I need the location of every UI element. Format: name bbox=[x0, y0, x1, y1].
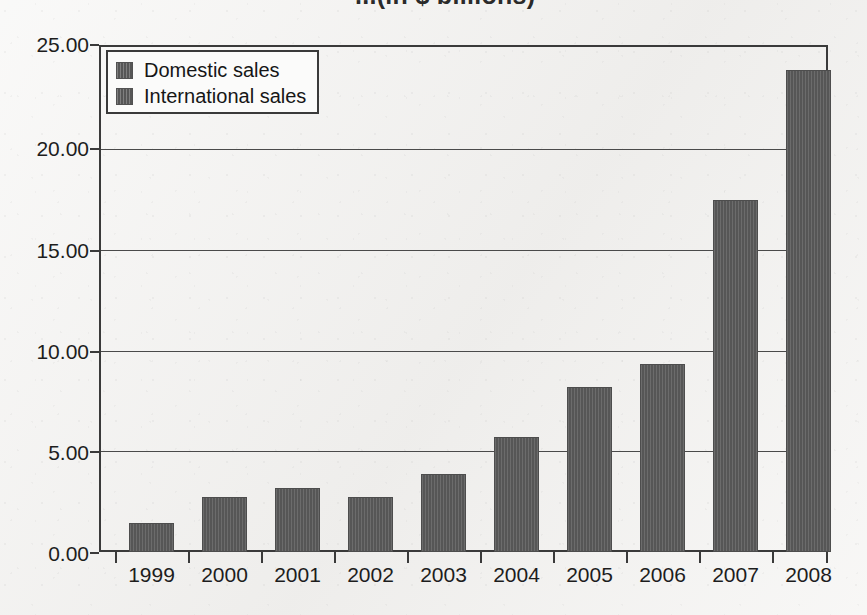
bar-2003 bbox=[421, 474, 466, 552]
y-tick-label-0: 0.00 bbox=[1, 543, 89, 564]
y-tick-mark-15 bbox=[90, 250, 99, 252]
x-tick-label-2000: 2000 bbox=[188, 564, 261, 585]
bar-2001 bbox=[275, 488, 320, 552]
bar-2002 bbox=[348, 497, 393, 552]
y-tick-label-5: 5.00 bbox=[1, 442, 89, 463]
x-tick-label-2001: 2001 bbox=[261, 564, 334, 585]
x-tick-label-2006: 2006 bbox=[626, 564, 699, 585]
y-tick-label-15: 15.00 bbox=[1, 240, 89, 261]
bar-2000 bbox=[202, 497, 247, 552]
bar-1999 bbox=[129, 523, 174, 552]
legend-entry-international-sales: International sales bbox=[116, 83, 317, 109]
x-tick-mark-9 bbox=[772, 552, 774, 563]
x-tick-mark-2 bbox=[261, 552, 263, 563]
x-tick-label-2008: 2008 bbox=[772, 564, 845, 585]
y-tick-label-20: 20.00 bbox=[1, 138, 89, 159]
legend-swatch-icon-international bbox=[116, 88, 133, 105]
chart-legend: Domestic sales International sales bbox=[106, 50, 319, 114]
y-tick-mark-10 bbox=[90, 351, 99, 353]
x-tick-label-1999: 1999 bbox=[115, 564, 188, 585]
x-tick-label-2004: 2004 bbox=[480, 564, 553, 585]
x-tick-mark-6 bbox=[553, 552, 555, 563]
x-tick-mark-3 bbox=[334, 552, 336, 563]
legend-entry-domestic-sales: Domestic sales bbox=[116, 57, 317, 83]
x-tick-mark-1 bbox=[188, 552, 190, 563]
x-tick-mark-7 bbox=[626, 552, 628, 563]
x-tick-label-2002: 2002 bbox=[334, 564, 407, 585]
y-tick-mark-25 bbox=[90, 44, 99, 46]
x-tick-label-2007: 2007 bbox=[699, 564, 772, 585]
x-tick-label-2005: 2005 bbox=[553, 564, 626, 585]
chart-title: ...(in $ billions) bbox=[355, 0, 535, 10]
x-tick-mark-5 bbox=[480, 552, 482, 563]
bar-2008 bbox=[786, 70, 831, 552]
chart-title-strip: ...(in $ billions) bbox=[0, 0, 867, 16]
y-tick-label-25: 25.00 bbox=[1, 34, 89, 55]
legend-label-domestic: Domestic sales bbox=[144, 60, 280, 80]
x-tick-label-2003: 2003 bbox=[407, 564, 480, 585]
y-tick-mark-5 bbox=[90, 451, 99, 453]
x-tick-mark-10 bbox=[826, 552, 828, 563]
bar-2006 bbox=[640, 364, 685, 552]
y-tick-mark-20 bbox=[90, 148, 99, 150]
x-tick-mark-4 bbox=[407, 552, 409, 563]
legend-label-international: International sales bbox=[144, 86, 306, 106]
bar-2005 bbox=[567, 387, 612, 552]
bar-2007 bbox=[713, 200, 758, 552]
legend-swatch-icon-domestic bbox=[116, 62, 133, 79]
y-tick-label-10: 10.00 bbox=[1, 341, 89, 362]
x-tick-mark-0 bbox=[115, 552, 117, 563]
x-tick-mark-8 bbox=[699, 552, 701, 563]
bar-chart-figure: ...(in $ billions) 25.00 20.00 15.00 10.… bbox=[0, 0, 867, 615]
y-tick-mark-0 bbox=[90, 552, 99, 554]
bar-2004 bbox=[494, 437, 539, 552]
